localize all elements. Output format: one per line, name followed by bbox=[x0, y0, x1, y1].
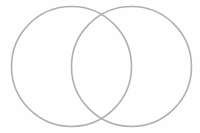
venn-diagram bbox=[0, 0, 200, 133]
venn-diagram-svg bbox=[0, 0, 200, 133]
